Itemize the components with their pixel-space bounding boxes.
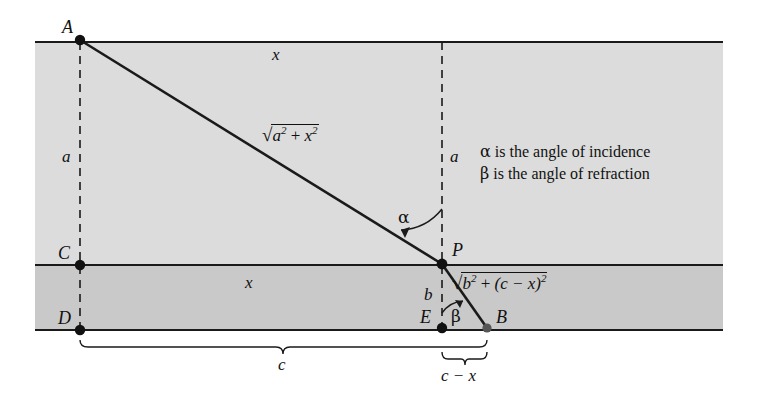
formula-incident-exp2: 2 <box>312 124 318 136</box>
legend-alpha-symbol: α <box>480 142 491 161</box>
angle-label-beta: β <box>451 308 461 325</box>
angle-label-alpha: α <box>398 209 409 226</box>
point-label-C: C <box>58 244 70 262</box>
brace-c-minus-x <box>442 352 487 365</box>
segment-label-x-top: x <box>272 46 280 63</box>
brace-c <box>80 340 487 354</box>
formula-refracted-exp1: 2 <box>471 272 477 284</box>
legend-beta-symbol: β <box>480 164 489 183</box>
formula-incident-term1: a <box>272 126 281 145</box>
segment-label-c-minus-x: c − x <box>441 367 476 384</box>
point-label-P: P <box>452 241 463 259</box>
formula-incident-term2: x <box>305 126 313 145</box>
formula-incident-plus: + <box>291 126 301 145</box>
point-dot-C <box>75 260 85 270</box>
formula-refracted-term2: (c − x) <box>495 274 541 293</box>
segment-label-a-right: a <box>450 148 459 165</box>
segment-label-b: b <box>424 286 433 303</box>
point-label-E: E <box>420 308 431 326</box>
legend-line-alpha: α is the angle of incidence <box>480 141 650 163</box>
figure-canvas: A C D P E B x x a a b c c − x α β √a2 + … <box>0 0 758 394</box>
formula-refracted-path: √b2 + (c − x)2 <box>452 272 547 292</box>
formula-incident-path: √a2 + x2 <box>262 124 319 144</box>
legend-beta-text: is the angle of refraction <box>489 165 649 182</box>
formula-refracted-term1: b <box>462 274 471 293</box>
legend-block: α is the angle of incidence β is the ang… <box>480 141 650 185</box>
lower-medium-band <box>35 265 723 330</box>
diagram-svg <box>0 0 758 394</box>
point-dot-A <box>75 35 85 45</box>
point-dot-B <box>482 323 491 332</box>
legend-line-beta: β is the angle of refraction <box>480 163 650 185</box>
formula-refracted-exp2: 2 <box>541 272 547 284</box>
segment-label-c: c <box>278 356 286 373</box>
legend-alpha-text: is the angle of incidence <box>491 143 651 160</box>
point-label-A: A <box>62 18 73 36</box>
segment-label-x-middle: x <box>245 274 253 291</box>
point-label-B: B <box>496 308 507 326</box>
segment-label-a-left: a <box>62 148 71 165</box>
point-label-D: D <box>58 309 71 327</box>
formula-incident-exp1: 2 <box>281 124 287 136</box>
point-dot-D <box>75 325 85 335</box>
point-dot-P <box>437 259 448 270</box>
point-dot-E <box>437 323 447 333</box>
formula-refracted-plus: + <box>481 274 491 293</box>
